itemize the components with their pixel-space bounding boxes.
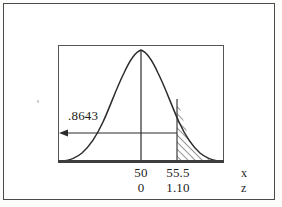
probability-label: .8643 (68, 108, 98, 124)
z-axis-tick-mean: 0 (129, 180, 153, 196)
z-axis-tick-cutpoint: 1.10 (161, 180, 195, 196)
normal-distribution-plot (58, 45, 224, 163)
x-axis-variable-label: x (241, 166, 247, 181)
z-axis-variable-label: z (241, 181, 246, 196)
scan-artifact-speck (37, 100, 39, 103)
x-axis-tick-cutpoint: 55.5 (161, 165, 195, 181)
figure-page: .8643 50 55.5 x 0 1.10 z (0, 0, 282, 207)
x-axis-tick-mean: 50 (129, 165, 153, 181)
